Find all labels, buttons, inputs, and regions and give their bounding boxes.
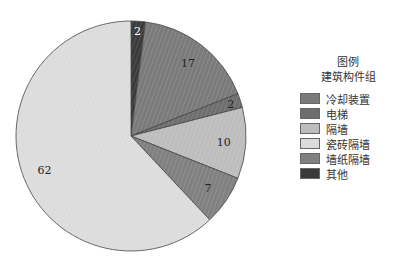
legend-swatch [300,168,320,179]
legend-item-tile-partition: 瓷砖隔墙 [300,136,396,151]
legend-item-other: 其他 [300,166,396,181]
legend-label: 冷却装置 [326,91,370,107]
legend-item-cooling: 冷却装置 [300,91,396,106]
legend-label: 隔墙 [326,121,348,137]
legend-item-partition: 隔墙 [300,121,396,136]
legend-item-wallpaper-partition: 墙纸隔墙 [300,151,396,166]
legend-title-line1: 图例 [300,55,396,70]
legend-swatch [300,93,320,104]
legend-title-line2: 建筑构件组 [300,70,396,85]
legend-label: 墙纸隔墙 [326,151,370,167]
legend-swatch [300,123,320,134]
slice-value-label: 17 [181,57,195,70]
slice-value-label: 10 [217,136,231,149]
slice-value-label: 62 [38,164,52,177]
legend-label: 其他 [326,166,348,182]
legend-swatch [300,138,320,149]
slice-value-label: 2 [134,25,141,38]
legend-swatch [300,153,320,164]
pie-chart: 217210762 [0,0,300,262]
legend-label: 电梯 [326,106,348,122]
legend-item-elevator: 电梯 [300,106,396,121]
slice-value-label: 7 [204,182,211,195]
legend-label: 瓷砖隔墙 [326,136,370,152]
legend: 图例 建筑构件组 冷却装置 电梯 隔墙 瓷砖隔墙 墙纸隔墙 其他 [300,55,396,181]
slice-value-label: 2 [227,98,234,111]
legend-swatch [300,108,320,119]
